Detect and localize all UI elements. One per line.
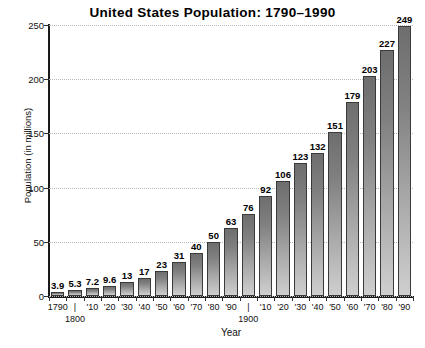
bar-value-label: 151 [327,120,343,131]
bar [276,181,289,296]
x-axis-tick-mark [396,297,397,301]
bar-value-label: 203 [362,64,378,75]
y-axis-tick-label: 250 [4,20,44,31]
x-axis-tick-label: '70 [364,302,376,312]
x-axis-tick-label: '90 [225,302,237,312]
x-axis-tick-mark [66,297,67,301]
x-axis-tick-mark [101,297,102,301]
x-axis-tick-label: | [247,302,249,312]
x-axis-tick-label: '50 [156,302,168,312]
x-axis-tick-label: '20 [277,302,289,312]
y-axis-tick-label: 50 [4,236,44,247]
x-axis-tick-mark [361,297,362,301]
population-bar-chart: United States Population: 1790–1990 Popu… [0,0,425,348]
bar [259,196,272,296]
bar-value-label: 9.6 [103,274,116,285]
y-axis-tick-label: 100 [4,182,44,193]
x-axis-tick-label: '60 [346,302,358,312]
x-axis-tick-label: '70 [190,302,202,312]
x-axis-tick-mark [292,297,293,301]
bar-value-label: 13 [122,270,133,281]
x-axis-tick-label: '30 [294,302,306,312]
bar-value-label: 23 [156,259,167,270]
bar [138,278,151,296]
x-axis-tick-mark [344,297,345,301]
x-axis-tick-label: | [74,302,76,312]
bar-value-label: 5.3 [68,278,81,289]
bar [398,26,411,296]
bar-value-label: 227 [379,38,395,49]
bar [51,292,64,296]
bar-value-label: 3.9 [51,280,64,291]
bar-value-label: 76 [243,202,254,213]
gridline [49,25,413,27]
x-axis-tick-label: '50 [329,302,341,312]
x-axis-century-label: 1900 [238,314,258,324]
x-axis-tick-label: 1790 [48,302,68,312]
bar [328,132,341,296]
x-axis-tick-label: '20 [104,302,116,312]
bar-value-label: 31 [174,250,185,261]
bar [242,214,255,296]
bar [86,288,99,296]
bar-value-label: 249 [396,14,412,25]
bar-value-label: 7.2 [86,276,99,287]
bar [172,262,185,296]
bar [294,163,307,296]
x-axis-tick-label: '80 [381,302,393,312]
x-axis-tick-label: '90 [398,302,410,312]
bar-value-label: 106 [275,169,291,180]
x-axis-tick-label: '10 [260,302,272,312]
bar [190,253,203,296]
x-axis-tick-mark [222,297,223,301]
bar-value-label: 40 [191,241,202,252]
bar-value-label: 132 [310,141,326,152]
bar-value-label: 179 [344,90,360,101]
plot-area: 3.95.37.29.61317233140506376921061231321… [49,25,413,296]
y-axis-tick-label: 150 [4,128,44,139]
x-axis-tick-label: '80 [208,302,220,312]
y-axis-tick-label: 0 [4,291,44,302]
y-axis-tick-label: 200 [4,74,44,85]
x-axis-tick-mark [136,297,137,301]
bar [380,50,393,296]
y-axis-tick-labels: 050100150200250 [0,25,44,296]
x-axis-tick-mark [118,297,119,301]
bar [224,228,237,296]
x-axis-tick-label: '30 [121,302,133,312]
x-axis-tick-mark [84,297,85,301]
x-axis-tick-mark [413,297,414,301]
chart-title: United States Population: 1790–1990 [0,5,425,20]
bar-value-label: 123 [292,151,308,162]
x-axis-tick-mark [274,297,275,301]
x-axis-tick-mark [49,297,50,301]
bar [207,242,220,296]
x-axis-label: Year [49,327,413,338]
x-axis-tick-mark [188,297,189,301]
x-axis-tick-mark [257,297,258,301]
x-axis-tick-label: '10 [86,302,98,312]
bar [363,76,376,296]
x-axis-tick-label: '40 [138,302,150,312]
bar [103,286,116,296]
x-axis-tick-mark [378,297,379,301]
x-axis-tick-mark [240,297,241,301]
bar [155,271,168,296]
bar-value-label: 50 [208,230,219,241]
bar [68,290,81,296]
bar-value-label: 17 [139,266,150,277]
gridline [49,79,413,81]
x-axis-tick-mark [205,297,206,301]
bar-value-label: 92 [260,184,271,195]
x-axis-tick-mark [309,297,310,301]
bar [311,153,324,296]
bar [346,102,359,296]
x-axis-tick-mark [153,297,154,301]
bar [120,282,133,296]
x-axis-century-label: 1800 [65,314,85,324]
x-axis-tick-mark [326,297,327,301]
bar-value-label: 63 [226,216,237,227]
x-axis-tick-label: '40 [312,302,324,312]
x-axis-tick-mark [170,297,171,301]
x-axis-tick-label: '60 [173,302,185,312]
